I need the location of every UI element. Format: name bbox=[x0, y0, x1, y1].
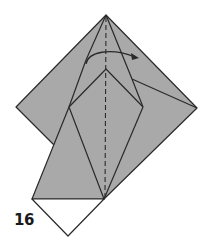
step-number: 16 bbox=[14, 211, 34, 229]
white-bottom-flap bbox=[32, 199, 104, 236]
